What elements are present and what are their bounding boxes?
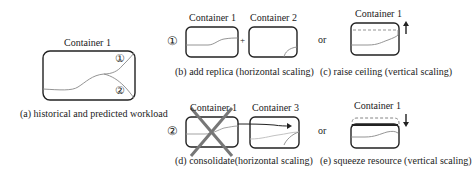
workload-curve-c xyxy=(351,30,398,45)
scenario-2-marker: ② xyxy=(115,84,125,97)
row-2-marker: ② xyxy=(167,124,178,139)
panel-a-caption: (a) historical and predicted workload xyxy=(20,108,168,119)
panel-c-or: or xyxy=(318,34,326,45)
cross-mark-icon xyxy=(191,108,232,156)
panel-d-container-3-label: Container 3 xyxy=(252,102,299,113)
plus-sign: + xyxy=(240,35,245,45)
arrow-up-head xyxy=(403,21,409,26)
arrow-down-head xyxy=(403,122,409,127)
panel-d-container-1-label: Container 1 xyxy=(190,102,237,113)
panel-c-container-label: Container 1 xyxy=(355,8,402,19)
workload-curve-e xyxy=(351,131,398,137)
panel-b-container-2-label: Container 2 xyxy=(250,12,297,23)
panel-b-container-1-label: Container 1 xyxy=(189,12,236,23)
migration-arrow xyxy=(238,124,290,126)
panel-b-caption: (b) add replica (horizontal scaling) xyxy=(175,66,314,77)
scenario-1-marker: ① xyxy=(115,52,125,65)
migration-arrow-head xyxy=(287,123,292,129)
row-1-marker: ① xyxy=(167,34,178,49)
container-1-box-c xyxy=(351,23,399,55)
panel-e-or: or xyxy=(318,125,326,136)
panel-d-caption: (d) consolidate(horizontal scaling) xyxy=(175,155,313,166)
container-1-box-b xyxy=(186,27,238,57)
workload-curve-b1 xyxy=(186,38,238,45)
panel-c-caption: (c) raise ceiling (vertical scaling) xyxy=(320,66,452,77)
panel-e-caption: (e) squeeze resource (vertical scaling) xyxy=(320,155,472,166)
panel-a-container-label: Container 1 xyxy=(64,37,111,48)
panel-e-container-label: Container 1 xyxy=(354,100,401,111)
container-2-box-b xyxy=(249,27,297,57)
